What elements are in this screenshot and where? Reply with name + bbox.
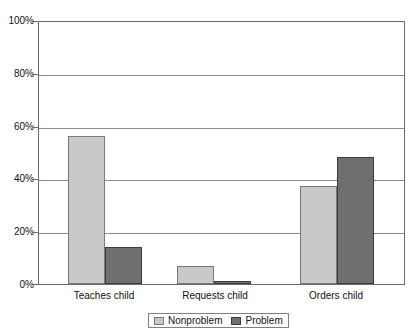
plot-area [38,21,405,285]
y-tick-label-20: 20% [0,227,34,237]
y-tick-label-60: 60% [0,122,34,132]
y-tick-label-80: 80% [0,69,34,79]
x-tick-label-orders-child: Orders child [276,289,396,303]
legend-swatch-problem-icon [231,317,241,325]
bar-orders-child-nonproblem[interactable] [300,186,337,284]
bar-chart-figure: 100% 80% 60% 40% 20% 0% Teaches child Re… [0,0,415,332]
clipped-title [6,0,226,6]
legend-swatch-nonproblem-icon [154,317,164,325]
x-axis: Teaches child Requests child Orders chil… [38,289,405,305]
legend-label-problem: Problem [245,316,282,326]
bar-requests-child-problem[interactable] [214,281,251,285]
gridline-80 [39,75,404,76]
legend: Nonproblem Problem [148,313,289,328]
bar-teaches-child-nonproblem[interactable] [68,136,105,284]
bar-requests-child-nonproblem[interactable] [177,266,214,285]
legend-label-nonproblem: Nonproblem [168,316,222,326]
gridline-60 [39,128,404,129]
y-tick-label-100: 100% [0,16,34,26]
legend-item-nonproblem[interactable]: Nonproblem [154,316,222,326]
bar-teaches-child-problem[interactable] [105,247,142,284]
y-tick-label-40: 40% [0,174,34,184]
x-tick-label-requests-child: Requests child [155,289,275,303]
bar-orders-child-problem[interactable] [337,157,374,284]
legend-item-problem[interactable]: Problem [231,316,282,326]
x-tick-label-teaches-child: Teaches child [44,289,164,303]
y-axis: 100% 80% 60% 40% 20% 0% [0,21,34,285]
y-tick-label-0: 0% [0,280,34,290]
